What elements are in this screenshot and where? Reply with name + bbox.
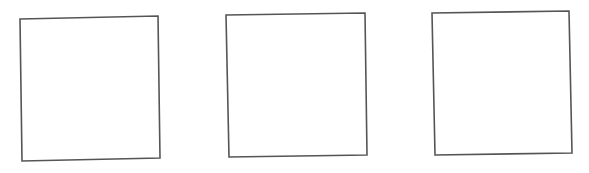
- diagram-canvas: [0, 0, 589, 173]
- square-box-2: [226, 13, 367, 157]
- square-box-3: [432, 11, 572, 155]
- shapes-layer: [0, 0, 589, 173]
- square-box-1: [20, 16, 160, 161]
